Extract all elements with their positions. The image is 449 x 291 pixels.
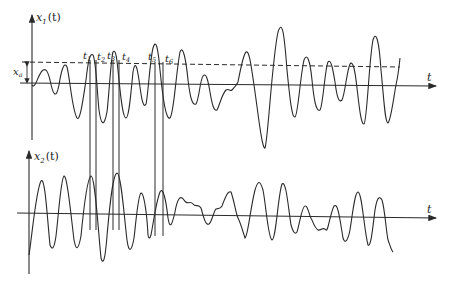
bottom-x-label: t — [427, 203, 432, 216]
top-x-axis — [20, 83, 436, 86]
top-y-label: x1(t) — [36, 11, 61, 26]
signal-diagram: x1(t) xa t t1 t2 t3 t4 t5 t6 x2(t) t — [0, 0, 449, 291]
signal-x1 — [32, 27, 400, 148]
top-plot — [20, 15, 436, 148]
threshold-line — [22, 62, 400, 67]
crossing-label-t3: t3 — [107, 50, 115, 63]
bottom-plot — [17, 151, 436, 274]
crossing-label-t2: t2 — [97, 51, 105, 64]
bottom-x-axis — [17, 213, 436, 218]
top-x-label: t — [427, 71, 432, 84]
crossing-projections — [90, 60, 163, 236]
threshold-label: xa — [13, 66, 23, 79]
crossing-label-t4: t4 — [122, 51, 130, 64]
bottom-y-label: x2(t) — [34, 150, 59, 165]
